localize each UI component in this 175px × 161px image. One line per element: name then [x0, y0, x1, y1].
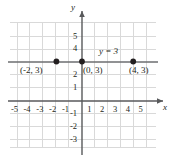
y-tick-1: 1 — [73, 83, 77, 92]
x-tick-2: 2 — [100, 105, 104, 114]
equation-label: y = 3 — [99, 47, 118, 56]
x-axis-label: x — [163, 103, 167, 112]
coordinate-plane-figure: y x -5 -4 -3 -2 -1 1 2 3 4 5 5 4 2 1 -1 … — [0, 0, 175, 161]
point-marker-4-3 — [130, 59, 136, 65]
y-tick--1: -1 — [70, 109, 77, 118]
point-label-neg2-3: (-2, 3) — [20, 66, 43, 75]
graph-canvas — [0, 0, 175, 161]
x-tick--4: -4 — [24, 105, 31, 114]
grid-lines-horizontal — [10, 23, 156, 148]
point-label-4-3: (4, 3) — [129, 66, 149, 75]
x-tick-3: 3 — [113, 105, 117, 114]
x-tick--3: -3 — [36, 105, 43, 114]
y-tick-4: 4 — [73, 44, 77, 53]
x-tick--5: -5 — [11, 105, 18, 114]
x-tick-1: 1 — [87, 105, 91, 114]
x-tick--1: -1 — [62, 105, 69, 114]
y-tick-2: 2 — [73, 70, 77, 79]
y-tick-5: 5 — [73, 32, 77, 41]
x-tick--2: -2 — [49, 105, 56, 114]
x-tick-4: 4 — [126, 105, 130, 114]
point-marker-0-3 — [79, 59, 85, 65]
y-tick--2: -2 — [70, 122, 77, 131]
point-label-0-3: (0, 3) — [83, 66, 103, 75]
point-marker-neg2-3 — [54, 59, 60, 65]
y-tick--3: -3 — [70, 135, 77, 144]
x-tick-5: 5 — [139, 105, 143, 114]
y-axis-label: y — [71, 3, 75, 12]
y-axis-arrowhead — [79, 11, 85, 17]
